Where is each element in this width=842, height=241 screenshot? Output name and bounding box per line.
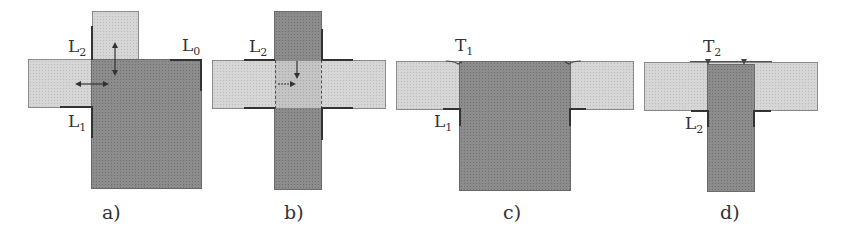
panel-c-edge-bottom-left-v <box>459 108 461 126</box>
panel-c-edge-bottom-right-v <box>569 108 571 126</box>
panel-b-edge-bottom-right-h <box>321 107 353 109</box>
panel-d-edge-bottom-left-h <box>691 110 708 112</box>
panel-b-dashed-left <box>275 60 276 109</box>
panel-d-T2-right-tick <box>741 59 747 65</box>
panel-c-edge-bottom-left-h <box>443 108 460 110</box>
panel-a-edge-L2 <box>91 26 93 60</box>
panel-a-caption: a) <box>102 203 121 222</box>
panel-c-T1-right-notch <box>563 59 581 67</box>
panel-d-edge-bottom-right-h <box>754 110 771 112</box>
panel-d-T2-left-tick <box>705 59 711 65</box>
panel-a-horizontal-double-arrow-icon <box>75 79 109 89</box>
panel-a-label-L1: L1 <box>68 113 86 133</box>
panel-a-edge-L0-v <box>200 59 202 91</box>
panel-b-dashed-right <box>321 60 322 109</box>
panel-b-label-L2: L2 <box>249 38 267 58</box>
panel-b-right-arrow-icon <box>278 80 296 88</box>
panel-c-dark-square <box>459 61 571 191</box>
panel-d-label-T2: T2 <box>703 38 721 58</box>
panel-b-edge-top-right-v <box>321 29 323 60</box>
panel-b-edge-top-left <box>244 59 275 61</box>
panel-a-vertical-double-arrow-icon <box>110 42 120 76</box>
panel-b-edge-top-right-h <box>321 59 353 61</box>
panel-a-edge-L1-v <box>91 106 93 138</box>
panel-a-label-L0: L0 <box>182 37 200 57</box>
panel-d-edge-bottom-left-v <box>707 110 709 127</box>
panel-c-label-T1: T1 <box>455 37 473 57</box>
panel-d-T2-top-mark <box>690 61 772 62</box>
panel-d-caption: d) <box>720 203 740 222</box>
panel-b-edge-bottom-right-v <box>321 107 323 140</box>
panel-c-label-L1: L1 <box>434 113 452 133</box>
panel-b-caption: b) <box>284 203 304 222</box>
panel-d-label-L2: L2 <box>685 115 703 135</box>
panel-d-dark-vertical-bar <box>707 64 755 192</box>
panel-a-edge-L0-h <box>170 59 202 61</box>
panel-a-edge-L1-h <box>60 106 93 108</box>
panel-c-T1-left-notch <box>446 59 464 67</box>
panel-b-down-arrow-icon <box>293 61 301 79</box>
panel-c-caption: c) <box>503 203 521 222</box>
panel-b-edge-bottom-left <box>244 107 275 109</box>
panel-c-edge-bottom-right-h <box>570 108 586 110</box>
panel-d-edge-bottom-right-v <box>753 110 755 127</box>
panel-a-label-L2: L2 <box>68 38 86 58</box>
